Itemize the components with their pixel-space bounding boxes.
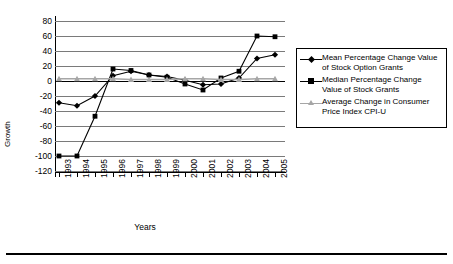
data-point-marker (272, 52, 278, 58)
x-tick-label: 2003 (243, 159, 253, 178)
y-tick-label: -120 (18, 167, 52, 175)
legend-label: Median Percentage Change Value of Stock … (322, 75, 443, 94)
data-point-marker (74, 103, 80, 109)
legend-label: Mean Percentage Change Value of Stock Op… (322, 53, 443, 72)
legend-item[interactable]: Median Percentage Change Value of Stock … (300, 75, 443, 94)
series-line (59, 36, 275, 156)
data-point-marker (57, 154, 62, 159)
y-tick-label: -60 (18, 122, 52, 130)
x-tick-label: 1999 (171, 159, 181, 178)
legend-label: Average Change in Consumer Price Index C… (322, 97, 443, 116)
y-tick-label: -40 (18, 107, 52, 115)
x-axis-tick-labels: 1993199419951996199719981999200020012002… (0, 178, 290, 218)
data-point-marker (93, 114, 98, 119)
y-axis-tick-labels: 806040200-20-40-60-80-100-120 (16, 0, 52, 200)
x-tick-label: 1998 (153, 159, 163, 178)
data-point-marker (56, 100, 62, 106)
legend-item[interactable]: Average Change in Consumer Price Index C… (300, 97, 443, 116)
series-canvas (55, 16, 287, 174)
data-point-marker (129, 68, 134, 73)
y-tick-label: 0 (18, 77, 52, 85)
y-tick-label: -100 (18, 152, 52, 160)
legend-item[interactable]: Mean Percentage Change Value of Stock Op… (300, 53, 443, 72)
x-tick-label: 2005 (279, 159, 289, 178)
y-axis-title: Growth (2, 35, 14, 95)
x-tick-label: 1997 (135, 159, 145, 178)
data-point-marker (237, 69, 242, 74)
x-tick-label: 2001 (207, 159, 217, 178)
legend-marker-square-icon (300, 76, 322, 86)
data-point-marker (201, 88, 206, 93)
y-tick-label: -20 (18, 92, 52, 100)
x-tick-label: 2000 (189, 159, 199, 178)
y-tick-label: -80 (18, 137, 52, 145)
plot-area: Growth 806040200-20-40-60-80-100-120 199… (0, 0, 290, 240)
x-tick-label: 1996 (117, 159, 127, 178)
data-point-marker (111, 67, 116, 72)
chart-legend: Mean Percentage Change Value of Stock Op… (296, 48, 447, 128)
x-tick-label: 1993 (63, 159, 73, 178)
data-point-marker (75, 154, 80, 159)
data-point-marker (183, 82, 188, 87)
chart-figure: Growth 806040200-20-40-60-80-100-120 199… (0, 0, 453, 264)
y-tick-label: 80 (18, 17, 52, 25)
y-tick-label: 60 (18, 32, 52, 40)
x-axis-title: Years (0, 222, 290, 232)
bottom-divider (6, 253, 447, 255)
x-tick-label: 2002 (225, 159, 235, 178)
data-point-marker (255, 34, 260, 39)
x-tick-label: 1995 (99, 159, 109, 178)
x-tick-label: 1994 (81, 159, 91, 178)
x-tick-label: 2004 (261, 159, 271, 178)
legend-marker-diamond-icon (300, 54, 322, 64)
data-point-marker (273, 34, 278, 39)
legend-marker-triangle-icon (300, 98, 322, 108)
data-point-marker (200, 82, 206, 88)
y-tick-label: 20 (18, 62, 52, 70)
y-tick-label: 40 (18, 47, 52, 55)
